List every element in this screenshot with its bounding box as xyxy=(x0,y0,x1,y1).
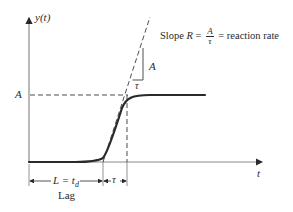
tau-dimension-label: τ xyxy=(112,175,116,186)
growth-curve xyxy=(29,95,205,162)
y-axis-var: y xyxy=(35,11,40,23)
slope-annotation: Slope R = Aτ = reaction rate xyxy=(160,27,279,46)
slope-equals: = xyxy=(193,30,204,41)
slope-suffix: = reaction rate xyxy=(216,30,279,41)
y-axis-label: y(t) xyxy=(35,12,50,23)
x-axis-label: t xyxy=(257,168,260,179)
lag-expression: L = t xyxy=(53,174,75,186)
lag-caption: Lag xyxy=(58,190,75,201)
triangle-rise-label: A xyxy=(149,61,156,72)
slope-prefix: Slope xyxy=(160,30,187,41)
lag-subscript: d xyxy=(75,180,79,189)
slope-fraction: Aτ xyxy=(206,27,214,46)
fraction-denominator: τ xyxy=(206,37,214,46)
plateau-label: A xyxy=(15,89,22,100)
lag-dimension-label: L = td xyxy=(53,175,79,189)
y-axis-arg: t xyxy=(44,11,47,23)
triangle-run-label: τ xyxy=(135,81,139,91)
